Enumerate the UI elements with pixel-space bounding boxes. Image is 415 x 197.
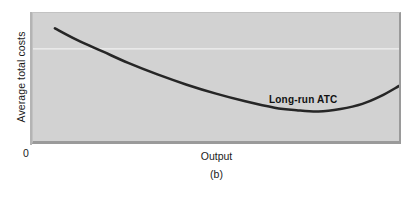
figure-panel-b: Long-run ATC Average total costs 0 Outpu… [0,0,415,197]
long-run-atc-curve-path [55,28,399,111]
y-axis-label: Average total costs [15,13,27,141]
x-axis-label: Output [32,150,401,162]
plot-area: Long-run ATC [32,12,401,144]
curve-label-long-run-atc: Long-run ATC [269,94,338,105]
figure-caption: (b) [32,168,401,180]
long-run-atc-curve-svg [33,13,399,141]
origin-label: 0 [23,147,29,159]
